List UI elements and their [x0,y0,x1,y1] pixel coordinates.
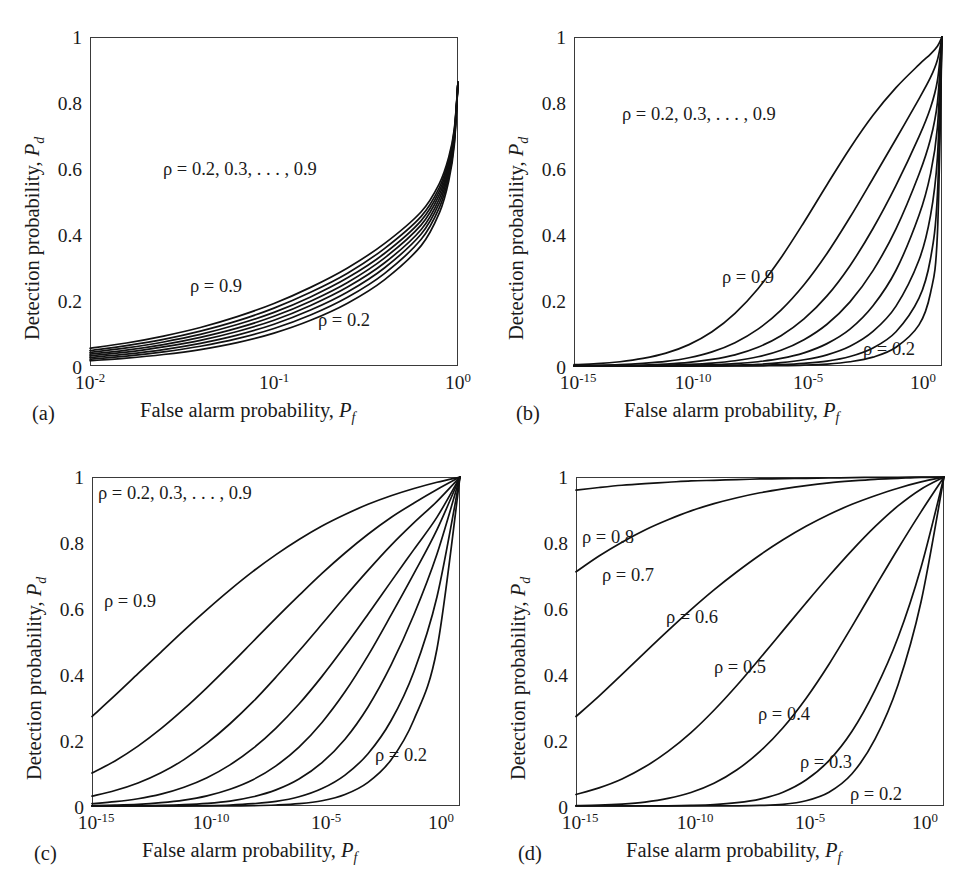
panel-d-x-axis-title: False alarm probability, Pf [626,840,841,861]
roc-curve [90,82,458,350]
panel-c-xtick-0: 10-15 [60,813,132,833]
panel-c-rho-02-label: ρ = 0.2 [375,746,427,765]
panel-a-x-axis-title: False alarm probability, Pf [140,400,355,421]
panel-b-y-axis-title: Detection probability, Pd [506,137,527,340]
panel-d-rho-06-label: ρ = 0.6 [666,608,718,627]
panel-d-rho-04-label: ρ = 0.4 [758,705,810,724]
panel-c-xtick-2: 10-5 [290,813,362,833]
panel-c: 0 0.2 0.4 0.6 0.8 1 10-15 10-10 10-5 100… [0,440,479,879]
panel-d: 0 0.2 0.4 0.6 0.8 1 10-15 10-10 10-5 100… [480,440,959,879]
panel-b: 0 0.2 0.4 0.6 0.8 1 10-15 10-10 10-5 100… [480,0,959,440]
panel-c-xtick-3: 100 [405,813,477,833]
panel-c-tag: (c) [34,843,57,864]
panel-d-rho-05-label: ρ = 0.5 [714,658,766,677]
panel-d-ytick-4: 0.8 [516,534,568,554]
roc-curve [90,82,458,359]
panel-c-rho-09-label: ρ = 0.9 [104,592,156,611]
panel-a-rho-09-label: ρ = 0.9 [190,277,242,296]
roc-curve [574,37,942,366]
panel-a-ytick-5: 1 [30,28,82,48]
panel-a-plot-area [90,37,458,366]
panel-d-rho-02-label: ρ = 0.2 [850,785,902,804]
roc-curve [90,82,458,352]
panel-a-tag: (a) [32,403,55,424]
roc-curve [90,82,458,355]
panel-d-rho-07-label: ρ = 0.7 [602,566,654,585]
panel-c-x-axis-title: False alarm probability, Pf [142,840,357,861]
panel-b-tag: (b) [516,403,540,424]
panel-b-curves [574,37,942,366]
roc-curve [574,37,942,366]
panel-a-curves [90,37,458,366]
panel-a-xtick-1: 10-1 [242,373,306,393]
panel-b-xtick-2: 10-5 [772,373,844,393]
panel-d-xtick-2: 10-5 [774,813,846,833]
panel-c-y-axis-title: Detection probability, Pd [24,577,45,780]
panel-c-xtick-1: 10-10 [175,813,247,833]
roc-figure: 0 0.2 0.4 0.6 0.8 1 10-2 10-1 100 Detect… [0,0,959,879]
panel-d-rho-03-label: ρ = 0.3 [800,753,852,772]
panel-a-rho-02-label: ρ = 0.2 [318,311,370,330]
panel-d-xtick-1: 10-10 [659,813,731,833]
panel-d-xtick-0: 10-15 [544,813,616,833]
panel-d-xtick-3: 100 [889,813,959,833]
panel-d-rho-08-label: ρ = 0.8 [582,528,634,547]
panel-b-rho-range-label: ρ = 0.2, 0.3, . . . , 0.9 [622,105,776,124]
panel-a-ytick-4: 0.8 [30,94,82,114]
roc-curve [90,82,458,354]
panel-b-xtick-3: 100 [887,373,959,393]
panel-c-rho-range-label: ρ = 0.2, 0.3, . . . , 0.9 [98,484,252,503]
panel-d-y-axis-title: Detection probability, Pd [508,577,529,780]
panel-d-tag: (d) [518,843,542,864]
panel-b-x-axis-title: False alarm probability, Pf [624,400,839,421]
roc-curve [574,37,942,365]
panel-a-y-axis-title: Detection probability, Pd [22,137,43,340]
panel-a-xtick-0: 10-2 [58,373,122,393]
roc-curve [90,82,458,360]
panel-b-ytick-5: 1 [514,28,566,48]
panel-d-ytick-5: 1 [516,468,568,488]
panel-c-ytick-5: 1 [32,468,84,488]
panel-a-rho-range-label: ρ = 0.2, 0.3, . . . , 0.9 [163,160,317,179]
roc-curve [574,37,942,366]
panel-b-ytick-4: 0.8 [514,94,566,114]
panel-a: 0 0.2 0.4 0.6 0.8 1 10-2 10-1 100 Detect… [0,0,479,440]
panel-b-rho-02-label: ρ = 0.2 [863,340,915,359]
panel-b-plot-area [574,37,942,366]
panel-b-xtick-0: 10-15 [542,373,614,393]
panel-c-ytick-4: 0.8 [32,534,84,554]
panel-b-xtick-1: 10-10 [657,373,729,393]
panel-b-rho-09-label: ρ = 0.9 [722,268,774,287]
roc-curve [576,477,944,794]
